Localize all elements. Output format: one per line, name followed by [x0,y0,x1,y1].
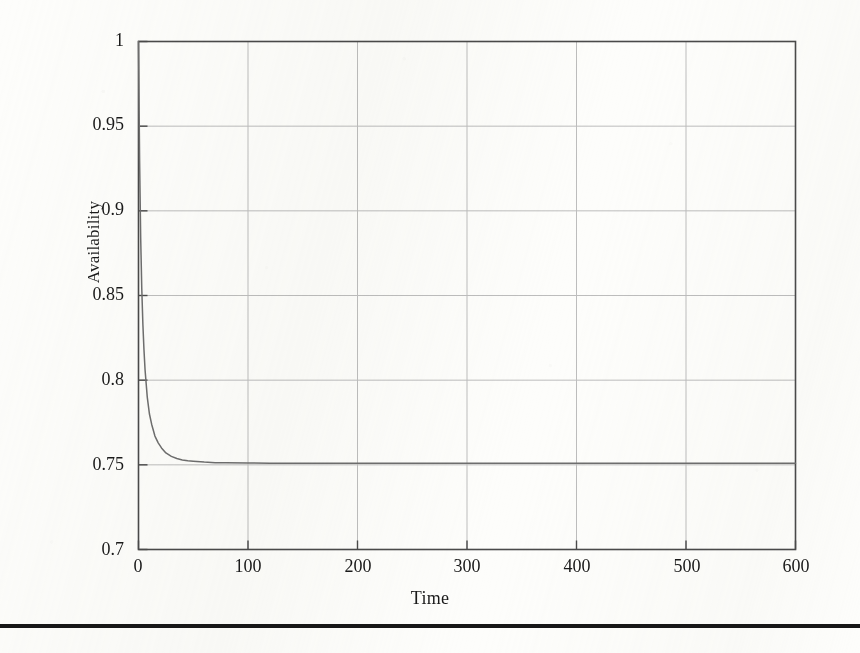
gridlines [139,42,796,550]
page-divider-rule [0,624,860,628]
plot-area [0,0,860,653]
availability-vs-time-chart: Availability 1 0.95 0.9 0.85 0.8 0.75 0.… [0,0,860,653]
